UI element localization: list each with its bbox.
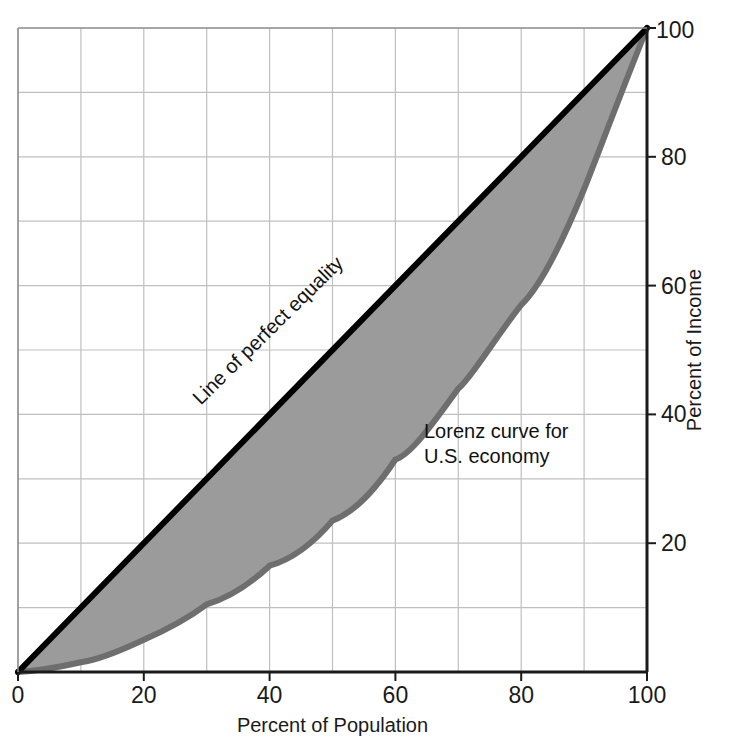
x-tick-label-100: 100: [628, 684, 666, 707]
chart-canvas: [0, 0, 746, 751]
y-tick-label-80: 80: [661, 145, 687, 168]
x-tick-label-40: 40: [257, 684, 283, 707]
annotation-lorenz-line2: U.S. economy: [424, 444, 569, 469]
annotation-lorenz-curve: Lorenz curve for U.S. economy: [424, 419, 569, 469]
annotation-lorenz-line1: Lorenz curve for: [424, 419, 569, 444]
x-tick-label-0: 0: [12, 684, 25, 707]
x-tick-label-20: 20: [131, 684, 157, 707]
lorenz-curve-chart: 0 20 40 60 80 100 20 40 60 80 100 Percen…: [0, 0, 746, 751]
y-tick-label-100: 100: [656, 19, 694, 42]
y-axis-title: Percent of Income: [683, 269, 706, 431]
x-tick-label-80: 80: [508, 684, 534, 707]
y-tick-label-20: 20: [661, 532, 687, 555]
x-axis-title: Percent of Population: [0, 714, 665, 737]
x-tick-label-60: 60: [383, 684, 409, 707]
